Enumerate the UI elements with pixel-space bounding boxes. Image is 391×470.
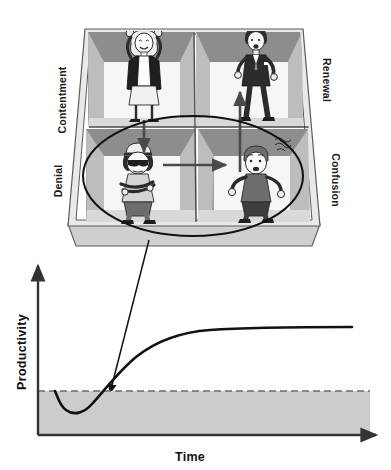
productivity-chart: Productivity Time bbox=[0, 0, 391, 470]
shaded-region bbox=[38, 391, 370, 435]
figure-root: Contentment Denial Renewal Confusion Pro… bbox=[0, 0, 391, 470]
y-axis-label: Productivity bbox=[15, 314, 29, 390]
x-axis-label: Time bbox=[175, 450, 205, 464]
